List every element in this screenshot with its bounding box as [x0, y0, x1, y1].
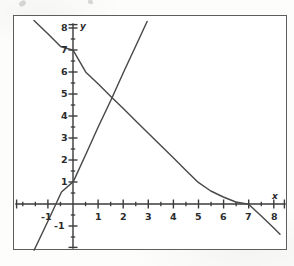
screenshot-root: -1 1 2 3 4 5 6 7 8 -1 1 2 3 4 5 6 7 8 y … — [0, 0, 294, 266]
y-tick-label--1: -1 — [54, 221, 65, 231]
x-tick-label-5: 5 — [195, 212, 202, 222]
x-tick-label-3: 3 — [145, 212, 152, 222]
y-tick-label-1: 1 — [61, 177, 68, 187]
y-tick-label-5: 5 — [61, 89, 68, 99]
x-tick-label-6: 6 — [220, 212, 227, 222]
y-tick-label-2: 2 — [61, 155, 68, 165]
plot-frame: -1 1 2 3 4 5 6 7 8 -1 1 2 3 4 5 6 7 8 y … — [13, 15, 287, 250]
x-tick-label-1: 1 — [95, 212, 102, 222]
x-tick-label-2: 2 — [120, 212, 127, 222]
x-tick-label-4: 4 — [170, 212, 177, 222]
x-tick-label-7: 7 — [245, 212, 252, 222]
scan-artifact — [18, 0, 27, 8]
x-tick-label--1: -1 — [41, 212, 52, 222]
x-axis-label: x — [272, 192, 278, 201]
x-tick-label-8: 8 — [271, 212, 278, 222]
y-tick-label-3: 3 — [61, 133, 68, 143]
scan-artifact — [87, 0, 93, 5]
y-tick-label-4: 4 — [61, 111, 68, 121]
y-axis-label: y — [80, 22, 86, 31]
y-tick-label-7: 7 — [61, 45, 68, 55]
y-tick-label-6: 6 — [61, 67, 68, 77]
y-tick-label-8: 8 — [61, 23, 68, 33]
